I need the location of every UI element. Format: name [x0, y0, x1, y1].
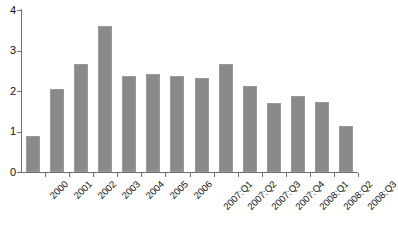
bar — [98, 26, 112, 172]
y-axis-tick-label: 1 — [2, 126, 16, 137]
x-axis-tick — [358, 173, 359, 177]
bar — [170, 76, 184, 172]
x-axis-tick — [69, 173, 70, 177]
x-axis-tick-label: 2004 — [145, 179, 167, 201]
x-axis-tick — [190, 173, 191, 177]
x-axis-tick — [165, 173, 166, 177]
y-axis-tick-label: 2 — [2, 86, 16, 97]
x-axis-tick-label: 2003 — [120, 179, 142, 201]
x-axis-tick — [141, 173, 142, 177]
y-axis-tick-label: 4 — [2, 5, 16, 16]
bar — [146, 74, 160, 172]
bar — [219, 64, 233, 172]
y-axis-tick-label: 0 — [2, 167, 16, 178]
bar — [26, 136, 40, 172]
y-axis-tick-label: 3 — [2, 45, 16, 56]
bar — [74, 64, 88, 172]
x-axis-tick — [334, 173, 335, 177]
x-axis-tick — [45, 173, 46, 177]
y-axis-tick — [17, 91, 22, 92]
bar — [195, 78, 209, 172]
y-axis-tick — [17, 10, 22, 11]
bar — [339, 126, 353, 172]
bar — [122, 76, 136, 172]
y-axis-labels: 01234 — [0, 0, 16, 228]
x-axis-tick — [238, 173, 239, 177]
x-axis-tick-label: 2005 — [169, 179, 191, 201]
y-axis-tick — [17, 132, 22, 133]
bar — [267, 103, 281, 172]
x-axis-tick-label: 2006 — [193, 179, 215, 201]
bar — [50, 89, 64, 172]
x-axis-tick — [310, 173, 311, 177]
bar — [315, 102, 329, 172]
x-axis-tick-label: 2000 — [48, 179, 70, 201]
x-axis-tick — [214, 173, 215, 177]
bar — [291, 96, 305, 172]
y-axis-tick — [17, 172, 22, 173]
x-axis-tick-label: 2001 — [72, 179, 94, 201]
x-axis-tick — [286, 173, 287, 177]
x-axis-tick-label: 2002 — [96, 179, 118, 201]
y-axis-tick — [17, 51, 22, 52]
x-axis-tick — [117, 173, 118, 177]
x-axis-tick — [262, 173, 263, 177]
x-axis-tick — [93, 173, 94, 177]
bar — [243, 86, 257, 172]
